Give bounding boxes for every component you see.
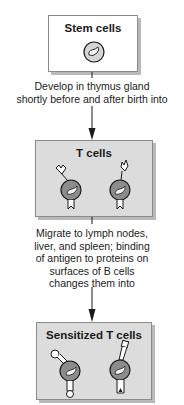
stem-cells-box: Stem cells bbox=[48, 15, 138, 72]
sensitized-t-cell-icon-right bbox=[101, 337, 141, 397]
step-2-line-5: changes them into bbox=[0, 277, 184, 290]
t-cell-icon-right bbox=[100, 157, 140, 217]
t-cell-icon-left bbox=[50, 159, 90, 219]
step-2-label: Migrate to lymph nodes, liver, and splee… bbox=[0, 227, 184, 290]
sensitized-t-cell-icon-left bbox=[45, 341, 95, 401]
step-2-line-4: surfaces of B cells bbox=[0, 265, 184, 278]
step-1-label: Develop in thymus gland shortly before a… bbox=[0, 80, 184, 105]
step-1-line-1: Develop in thymus gland bbox=[0, 80, 184, 93]
t-cells-box: T cells bbox=[35, 140, 153, 217]
step-1-line-2: shortly before and after birth into bbox=[0, 93, 184, 106]
step-2-line-1: Migrate to lymph nodes, bbox=[0, 227, 184, 240]
stem-cell-icon bbox=[49, 16, 139, 73]
step-2-line-2: liver, and spleen; binding bbox=[0, 240, 184, 253]
step-2-line-3: of antigen to proteins on bbox=[0, 252, 184, 265]
sensitized-t-cells-box: Sensitized T cells bbox=[36, 322, 152, 400]
